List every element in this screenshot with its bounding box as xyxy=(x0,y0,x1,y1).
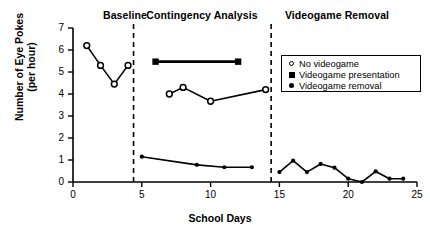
x-tick-label: 15 xyxy=(269,189,289,200)
y-tick-label: 3 xyxy=(48,110,64,121)
data-point-filled-square xyxy=(235,58,241,64)
y-tick-label: 4 xyxy=(48,88,64,99)
y-tick-label: 0 xyxy=(48,176,64,187)
data-point-filled-circle xyxy=(387,177,391,181)
legend-label: Videogame removal xyxy=(297,81,382,91)
x-tick-label: 5 xyxy=(132,189,152,200)
data-point-open-circle xyxy=(111,81,117,87)
data-point-filled-circle xyxy=(195,163,199,167)
x-tick-label: 0 xyxy=(63,189,83,200)
open-circle-icon xyxy=(286,61,297,66)
data-point-open-circle xyxy=(125,63,131,69)
y-tick-label: 1 xyxy=(48,154,64,165)
chart-container: Baseline Contingency Analysis Videogame … xyxy=(0,0,430,236)
chart-legend: No videogame Videogame presentation Vide… xyxy=(281,55,421,92)
data-point-filled-circle xyxy=(140,155,144,159)
data-point-filled-circle xyxy=(291,159,295,163)
x-tick-label: 25 xyxy=(407,189,427,200)
y-tick-label: 6 xyxy=(48,44,64,55)
legend-item-no-videogame: No videogame xyxy=(286,58,417,69)
data-point-filled-circle xyxy=(346,177,350,181)
filled-square-icon xyxy=(286,72,297,78)
data-point-open-circle xyxy=(98,63,104,69)
data-point-open-circle xyxy=(263,87,269,93)
data-point-open-circle xyxy=(84,43,90,49)
x-tick-label: 10 xyxy=(201,189,221,200)
legend-label: No videogame xyxy=(297,59,359,69)
data-point-filled-circle xyxy=(360,180,364,184)
y-tick-label: 7 xyxy=(48,22,64,33)
filled-circle-icon xyxy=(286,83,297,88)
data-point-filled-circle xyxy=(222,165,226,169)
x-tick-label: 20 xyxy=(338,189,358,200)
plot-area xyxy=(0,0,430,236)
y-tick-label: 2 xyxy=(48,132,64,143)
data-point-open-circle xyxy=(208,98,214,104)
data-point-filled-circle xyxy=(332,166,336,170)
data-point-filled-circle xyxy=(401,177,405,181)
series-line-videogame-removal xyxy=(279,161,403,182)
data-point-filled-square xyxy=(152,58,158,64)
legend-label: Videogame presentation xyxy=(297,70,400,80)
data-point-open-circle xyxy=(180,85,186,91)
data-point-filled-circle xyxy=(374,169,378,173)
data-point-filled-circle xyxy=(250,165,254,169)
series-line-no-videogame xyxy=(87,46,128,85)
legend-item-videogame-removal: Videogame removal xyxy=(286,80,417,91)
data-point-filled-circle xyxy=(277,170,281,174)
legend-item-videogame-presentation: Videogame presentation xyxy=(286,69,417,80)
data-point-filled-circle xyxy=(305,170,309,174)
data-point-open-circle xyxy=(166,91,172,97)
data-point-filled-circle xyxy=(319,162,323,166)
y-tick-label: 5 xyxy=(48,66,64,77)
